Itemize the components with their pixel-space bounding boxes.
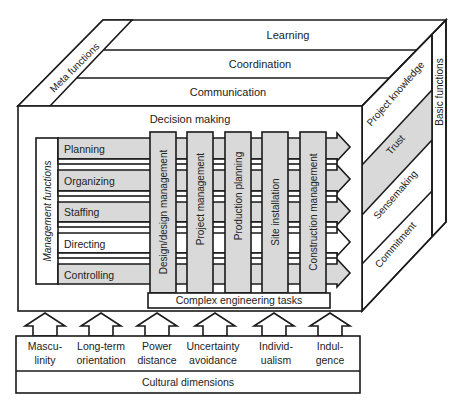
project-management-cube-diagram: Learning Coordination Communication Meta…	[0, 0, 464, 407]
front-face: Decision making Management functions Pla…	[18, 106, 362, 311]
decision-making-label: Decision making	[150, 113, 231, 125]
column-project-management: Project management	[187, 132, 213, 293]
svg-text:Communication: Communication	[190, 86, 266, 98]
column-site-installation: Site installation	[262, 132, 288, 293]
svg-text:Controlling: Controlling	[64, 269, 114, 281]
top-layer-coordination: Coordination	[229, 58, 291, 70]
svg-text:Site installation: Site installation	[270, 178, 281, 245]
svg-text:ualism: ualism	[261, 354, 292, 366]
basic-functions-label: Basic functions	[434, 58, 445, 125]
svg-text:distance: distance	[137, 354, 176, 366]
up-arrow-icon	[310, 313, 350, 336]
management-functions-label: Management functions	[42, 160, 53, 261]
svg-text:orientation: orientation	[76, 354, 125, 366]
up-arrow-icon	[137, 313, 177, 336]
svg-text:Mascu-: Mascu-	[28, 340, 63, 352]
top-layer-communication: Communication	[190, 86, 266, 98]
svg-text:Production planning: Production planning	[233, 152, 244, 240]
column-design-management: Design/design management	[150, 132, 176, 293]
svg-text:Long-term: Long-term	[77, 340, 125, 352]
up-arrow-icon	[25, 313, 65, 336]
column-production-planning: Production planning	[225, 132, 251, 293]
svg-text:Learning: Learning	[267, 29, 310, 41]
top-layer-learning: Learning	[267, 29, 310, 41]
svg-text:Individ-: Individ-	[259, 340, 293, 352]
column-construction-management: Construction management	[300, 132, 326, 293]
svg-text:Staffing: Staffing	[64, 206, 100, 218]
svg-text:Directing: Directing	[64, 238, 106, 250]
svg-text:Power: Power	[142, 340, 172, 352]
complex-engineering-tasks-bar: Complex engineering tasks	[148, 293, 330, 308]
svg-text:Indul-: Indul-	[317, 340, 344, 352]
svg-text:Construction management: Construction management	[308, 153, 319, 271]
svg-text:Design/design management: Design/design management	[158, 150, 169, 275]
engineering-columns: Design/design management Project managem…	[150, 132, 326, 293]
svg-text:Planning: Planning	[64, 143, 105, 155]
cultural-influence-arrows	[25, 313, 350, 336]
up-arrow-icon	[81, 313, 121, 336]
cultural-dimensions-title: Cultural dimensions	[142, 376, 234, 388]
svg-text:Complex engineering tasks: Complex engineering tasks	[176, 294, 303, 306]
svg-text:Project management: Project management	[195, 153, 206, 245]
svg-text:Coordination: Coordination	[229, 58, 291, 70]
svg-text:gence: gence	[316, 354, 345, 366]
up-arrow-icon	[195, 313, 235, 336]
svg-text:linity: linity	[34, 354, 56, 366]
cultural-dimensions-box: Mascu- linity Long-term orientation Powe…	[16, 336, 360, 393]
up-arrow-icon	[254, 313, 294, 336]
svg-text:Uncertainty: Uncertainty	[186, 340, 240, 352]
svg-text:avoidance: avoidance	[189, 354, 237, 366]
svg-text:Organizing: Organizing	[64, 175, 115, 187]
